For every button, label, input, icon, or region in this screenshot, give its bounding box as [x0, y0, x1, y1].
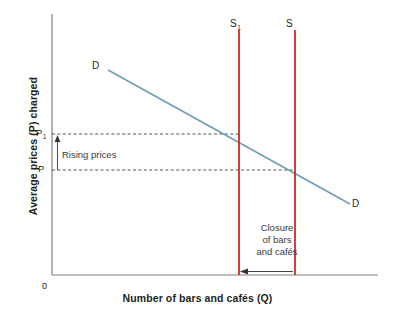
supply-curve-s1-label-subscript: 1	[237, 24, 241, 31]
y-tick-label-p: P	[38, 164, 44, 175]
rising-prices-arrow-icon	[55, 135, 61, 170]
x-axis-title: Number of bars and cafés (Q)	[0, 292, 395, 304]
supply-curve-s-label: S	[286, 18, 293, 31]
closure-annotation-line-1: Closure	[261, 222, 294, 233]
demand-curve-label-bottom: D	[352, 198, 359, 210]
y-tick-label-p1-subscript: 1	[42, 133, 46, 140]
demand-curve-label-top: D	[92, 60, 99, 72]
demand-curve-line	[108, 70, 350, 204]
origin-label: 0	[42, 281, 47, 291]
supply-curve-s-label-base: S	[286, 18, 293, 29]
chart-plot-area	[0, 0, 395, 314]
closure-annotation-line-3: and cafés	[256, 246, 297, 257]
supply-curve-s-label-subscript	[293, 24, 294, 31]
rising-prices-annotation: Rising prices	[62, 150, 116, 161]
supply-curve-s1-label-base: S	[230, 18, 237, 29]
y-axis-title: Average prices (P) charged	[27, 41, 39, 251]
supply-curve-s1-label: S1	[230, 18, 241, 31]
closure-left-arrow-icon	[240, 268, 293, 274]
economics-supply-demand-chart: Number of bars and cafés (Q) Average pri…	[0, 0, 395, 314]
closure-annotation: Closureof barsand cafés	[238, 222, 316, 258]
y-tick-label-p1: P1	[36, 128, 46, 140]
closure-annotation-line-2: of bars	[262, 234, 291, 245]
